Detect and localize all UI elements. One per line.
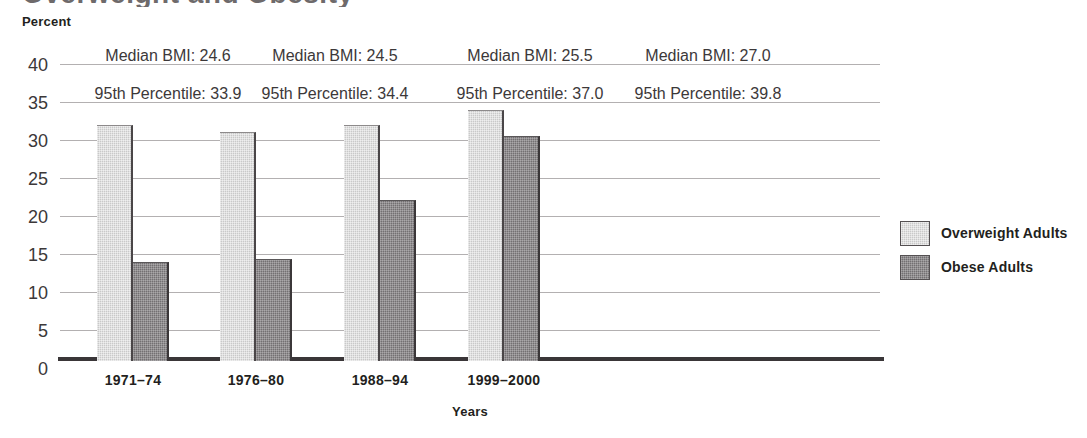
y-tick-label-25: 25 <box>0 170 48 188</box>
bar-obese-1988-94 <box>380 200 416 361</box>
x-axis-title: Years <box>0 404 940 419</box>
bar-overweight-1999-2000 <box>468 110 504 361</box>
legend-swatch-obese-icon <box>900 255 930 280</box>
y-tick-label-35: 35 <box>0 94 48 112</box>
bottom-remnant-text: Source: National Center for Health Stati… <box>24 432 317 435</box>
bar-obese-1976-80 <box>256 259 292 361</box>
legend-label-overweight: Overweight Adults <box>941 225 1068 241</box>
legend-item-obese: Obese Adults <box>900 250 1085 284</box>
bottom-remnant: Source: National Center for Health Stati… <box>0 432 1087 438</box>
bar-obese-1999-2000 <box>504 136 540 361</box>
bar-overweight-1988-94 <box>344 125 380 361</box>
y-tick-label-5: 5 <box>0 322 48 340</box>
y-tick-label-40: 40 <box>0 56 48 74</box>
y-tick-label-15: 15 <box>0 246 48 264</box>
plot-area <box>60 56 880 361</box>
bar-chart: Overweight and Obesity Percent 40 35 30 … <box>0 0 1087 438</box>
x-tick-label-1999-2000: 1999–2000 <box>431 372 577 388</box>
legend-item-overweight: Overweight Adults <box>900 216 1085 250</box>
y-tick-label-10: 10 <box>0 284 48 302</box>
title-remnant-text: Overweight and Obesity <box>22 0 354 7</box>
gridline-40 <box>60 64 880 65</box>
legend-label-obese: Obese Adults <box>941 259 1033 275</box>
bar-obese-1971-74 <box>133 262 169 361</box>
title-remnant: Overweight and Obesity <box>0 0 1087 7</box>
legend: Overweight Adults Obese Adults <box>900 216 1085 284</box>
y-tick-label-20: 20 <box>0 208 48 226</box>
gridline-35 <box>60 102 880 103</box>
bar-overweight-1976-80 <box>220 132 256 361</box>
legend-swatch-overweight-icon <box>900 221 930 246</box>
y-tick-label-0: 0 <box>0 360 48 378</box>
bar-overweight-1971-74 <box>97 125 133 361</box>
y-axis-title: Percent <box>22 14 71 29</box>
y-tick-label-30: 30 <box>0 132 48 150</box>
